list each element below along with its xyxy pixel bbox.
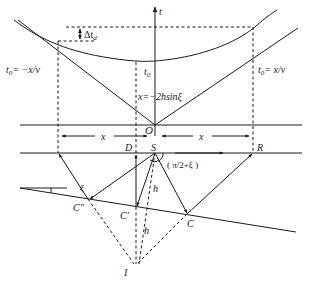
h-lower-label: h <box>144 225 149 236</box>
point-D-label: D <box>124 142 133 153</box>
x-left-label: x <box>100 131 106 142</box>
reflection-hyperbola <box>14 10 277 61</box>
point-C-label: C <box>187 218 194 229</box>
t-axis-label: t <box>159 6 162 17</box>
direct-wave-right <box>155 28 298 125</box>
delta-t-label: Δtd <box>84 29 97 42</box>
origin-label: O <box>145 124 153 136</box>
image-point-label: I <box>123 267 128 278</box>
dip-angle-label: ξ <box>80 183 84 193</box>
point-C1-label: C′ <box>120 210 130 221</box>
ray-S-to-C2 <box>90 153 155 199</box>
dipping-reflector <box>20 188 296 232</box>
point-S-label: S <box>151 142 156 153</box>
t0-right-label: t0= x/v <box>258 64 286 77</box>
dashed-C2-to-I <box>88 199 134 264</box>
point-C2-label: C″ <box>73 202 85 213</box>
h-upper-label: h <box>153 183 158 194</box>
diagram-svg: t Δtd t0= −x/v t0= x/v t0 x=−2hsinξ O x … <box>0 0 309 284</box>
min-offset-label: x=−2hsinξ <box>137 91 183 103</box>
t0-left-label: t0= −x/v <box>6 64 40 77</box>
reflection-diagram: t Δtd t0= −x/v t0= x/v t0 x=−2hsinξ O x … <box>0 0 309 284</box>
angle-label: ( π/2+ξ ) <box>167 160 198 170</box>
t0-center-label: t0 <box>144 66 151 79</box>
x-right-label: x <box>198 131 204 142</box>
dashed-C-to-I <box>137 214 187 264</box>
dashed-S-to-I <box>139 153 155 264</box>
point-R-label: R <box>256 142 263 153</box>
